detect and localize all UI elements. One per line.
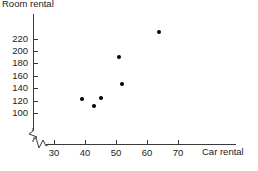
x-tick-label: 60 xyxy=(134,147,160,158)
x-tick-mark xyxy=(147,140,148,144)
x-axis-line xyxy=(46,144,236,145)
y-tick-label: 160 xyxy=(2,70,28,81)
x-tick-mark xyxy=(54,140,55,144)
y-tick-mark xyxy=(34,113,38,114)
y-tick-mark xyxy=(34,88,38,89)
data-point xyxy=(92,104,96,108)
x-tick-label: 70 xyxy=(165,147,191,158)
y-tick-label: 220 xyxy=(2,33,28,44)
data-point xyxy=(157,30,161,34)
y-tick-mark xyxy=(34,51,38,52)
data-point xyxy=(120,82,124,86)
scatter-plot: Room rental Car rental 10012014016018020… xyxy=(0,0,258,171)
y-tick-mark xyxy=(34,39,38,40)
x-tick-mark xyxy=(178,140,179,144)
x-tick-label: 40 xyxy=(72,147,98,158)
data-point xyxy=(117,55,121,59)
y-tick-label: 100 xyxy=(2,107,28,118)
y-tick-label: 180 xyxy=(2,57,28,68)
y-tick-mark xyxy=(34,101,38,102)
chart-title: Room rental xyxy=(2,0,54,9)
x-tick-label: 30 xyxy=(41,147,67,158)
y-tick-label: 200 xyxy=(2,45,28,56)
y-tick-mark xyxy=(34,76,38,77)
y-tick-label: 120 xyxy=(2,95,28,106)
x-tick-mark xyxy=(85,140,86,144)
x-axis-label: Car rental xyxy=(202,146,244,157)
data-point xyxy=(80,97,84,101)
data-point xyxy=(99,96,103,100)
x-tick-mark xyxy=(116,140,117,144)
x-tick-label: 50 xyxy=(103,147,129,158)
y-tick-label: 140 xyxy=(2,82,28,93)
y-tick-mark xyxy=(34,63,38,64)
